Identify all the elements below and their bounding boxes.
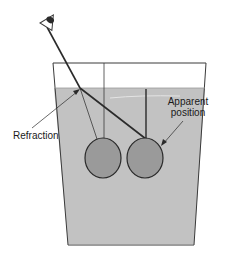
real-ball bbox=[85, 138, 121, 178]
apparent-position-label: Apparent position bbox=[168, 96, 209, 118]
apparent-ball bbox=[127, 138, 163, 178]
apparent-label-line2: position bbox=[168, 107, 209, 118]
eye-icon bbox=[40, 11, 59, 30]
apparent-label-line1: Apparent bbox=[168, 96, 209, 107]
refraction-label: Refraction bbox=[13, 130, 59, 141]
ray-eye-to-surface bbox=[47, 27, 80, 88]
refraction-diagram bbox=[0, 0, 234, 255]
